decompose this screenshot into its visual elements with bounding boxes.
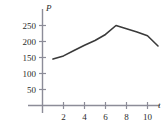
y-tick-label-100: 100 — [23, 69, 37, 79]
y-tick-label-50: 50 — [27, 85, 37, 95]
x-tick-label-10: 10 — [143, 112, 153, 122]
y-tick-label-200: 200 — [23, 37, 37, 47]
x-tick-label-6: 6 — [103, 112, 108, 122]
chart-figure: 250 200 150 100 50 2 4 6 8 10 P t — [0, 0, 168, 124]
x-tick-label-2: 2 — [61, 112, 66, 122]
data-series-line — [53, 26, 158, 60]
y-tick-label-150: 150 — [23, 53, 37, 63]
line-chart: 250 200 150 100 50 2 4 6 8 10 P t — [0, 0, 168, 124]
x-tick-label-8: 8 — [124, 112, 129, 122]
x-tick-label-4: 4 — [82, 112, 87, 122]
x-axis-label: t — [158, 100, 161, 110]
y-tick-label-250: 250 — [23, 21, 37, 31]
y-axis-label: P — [45, 3, 52, 13]
